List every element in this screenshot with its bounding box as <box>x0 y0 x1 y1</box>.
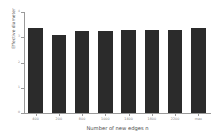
x-axis-tick <box>36 113 37 116</box>
bar <box>191 28 205 113</box>
x-axis-spine <box>24 113 211 114</box>
x-axis-tick-label: 2200 <box>171 117 180 121</box>
x-axis-tick <box>59 113 60 116</box>
y-axis-tick-label: 3 <box>6 36 20 39</box>
x-axis-tick <box>129 113 130 116</box>
y-axis-tick-label: 2 <box>6 61 20 64</box>
x-axis-tick-label: 1400 <box>124 117 133 121</box>
bar <box>145 30 159 113</box>
x-axis-tick-label: 1000 <box>101 117 110 121</box>
x-axis-tick <box>198 113 199 116</box>
bar <box>121 30 135 113</box>
x-axis-tick-label: 800 <box>79 117 86 121</box>
x-axis-label: Number of new edges n <box>24 125 211 131</box>
x-axis-tick-label: 1800 <box>147 117 156 121</box>
x-axis-tick <box>152 113 153 116</box>
y-axis-tick-label: 1 <box>6 86 20 89</box>
bar <box>168 30 182 113</box>
x-axis-tick <box>82 113 83 116</box>
x-axis-tick <box>105 113 106 116</box>
bar <box>75 31 89 113</box>
chart-figure: Effective diameter 01234 400200800100014… <box>0 0 216 140</box>
bar <box>28 28 42 113</box>
x-axis-tick <box>175 113 176 116</box>
y-axis-tick <box>21 113 24 114</box>
bar-series <box>24 12 210 113</box>
bar <box>52 35 66 113</box>
y-axis-tick-label: 0 <box>6 111 20 114</box>
x-axis-tick-label: 400 <box>32 117 39 121</box>
bar <box>98 31 112 113</box>
x-axis-tick-label: 200 <box>56 117 63 121</box>
x-axis-tick-label: max <box>195 117 202 121</box>
y-axis-tick-label: 4 <box>6 10 20 13</box>
